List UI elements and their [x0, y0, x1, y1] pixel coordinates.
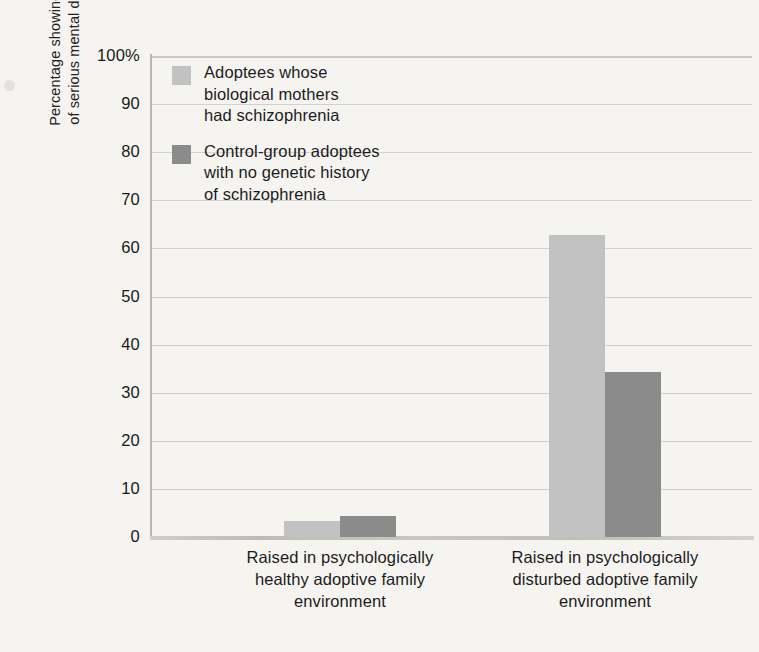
gridline-40 — [152, 345, 752, 346]
bar-series-1-category-0 — [340, 516, 396, 537]
x-axis-category-label-1: Raised in psychologically disturbed adop… — [440, 546, 759, 612]
y-axis-tick-label-100: 100% — [80, 46, 140, 65]
x-axis-category-label-1-line-1: disturbed adoptive family — [440, 568, 759, 590]
legend-label-series-0-line-0: Adoptees whose — [204, 62, 340, 84]
gridline-100 — [152, 56, 752, 58]
gridline-20 — [152, 441, 752, 442]
y-axis-tick-label-50: 50 — [80, 287, 140, 306]
y-axis-tick-label-90: 90 — [80, 94, 140, 113]
chart-legend: Adoptees whose biological mothers had sc… — [172, 62, 502, 219]
legend-label-series-1-line-2: of schizophrenia — [204, 184, 380, 206]
legend-label-series-0-line-1: biological mothers — [204, 84, 340, 106]
legend-item-control-group: Control-group adoptees with no genetic h… — [172, 141, 502, 206]
y-axis-tick-label-20: 20 — [80, 431, 140, 450]
gridline-10 — [152, 489, 752, 490]
y-axis-tick-label-0: 0 — [80, 527, 140, 546]
plot-area: Adoptees whose biological mothers had sc… — [152, 56, 752, 537]
gridline-50 — [152, 297, 752, 298]
y-axis-tick-label-30: 30 — [80, 383, 140, 402]
y-axis-tick-label-70: 70 — [80, 190, 140, 209]
gridline-30 — [152, 393, 752, 394]
legend-swatch-dark-icon — [172, 145, 191, 164]
bar-series-0-category-1 — [549, 235, 605, 537]
legend-label-series-1: Control-group adoptees with no genetic h… — [204, 141, 380, 206]
x-axis-category-label-1-line-0: Raised in psychologically — [440, 546, 759, 568]
legend-label-series-1-line-0: Control-group adoptees — [204, 141, 380, 163]
y-axis-tick-label-10: 10 — [80, 479, 140, 498]
x-axis-line — [150, 536, 754, 540]
legend-item-adoptees-schizophrenia: Adoptees whose biological mothers had sc… — [172, 62, 502, 127]
x-axis-category-label-1-line-2: environment — [440, 590, 759, 612]
bar-chart-figure: Percentage showing signs of serious ment… — [0, 0, 759, 652]
legend-label-series-0-line-2: had schizophrenia — [204, 105, 340, 127]
y-axis-tick-label-60: 60 — [80, 238, 140, 257]
bar-series-1-category-1 — [605, 372, 661, 537]
legend-label-series-1-line-1: with no genetic history — [204, 162, 380, 184]
legend-swatch-light-icon — [172, 66, 191, 85]
y-axis-tick-label-40: 40 — [80, 335, 140, 354]
gridline-60 — [152, 248, 752, 249]
bar-series-0-category-0 — [284, 521, 340, 537]
legend-label-series-0: Adoptees whose biological mothers had sc… — [204, 62, 340, 127]
y-axis-tick-label-80: 80 — [80, 142, 140, 161]
